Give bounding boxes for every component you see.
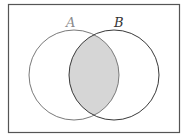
label-a: A: [65, 15, 75, 30]
venn-diagram: A B: [0, 0, 186, 137]
label-b: B: [113, 15, 124, 30]
